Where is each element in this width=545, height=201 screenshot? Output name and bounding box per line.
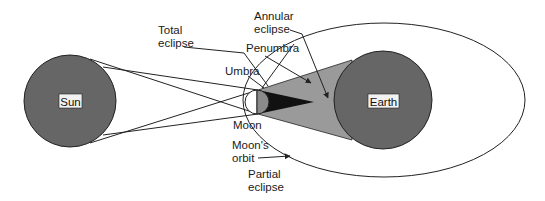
solar-eclipse-diagram: Sun Earth Total eclipse Annular eclipse … (0, 0, 545, 201)
moons-orbit-arrow (258, 156, 290, 158)
earth-label-box: Earth (368, 94, 399, 108)
partial-eclipse-label-line1: Partial (248, 168, 281, 180)
moons-orbit-label-line1: Moon's (232, 139, 269, 151)
moon (245, 90, 269, 114)
sun-label: Sun (60, 96, 80, 108)
moon-label: Moon (233, 119, 262, 131)
annular-eclipse-label-line1: Annular (254, 10, 294, 22)
total-eclipse-label-line1: Total (158, 24, 182, 36)
partial-eclipse-label-line2: eclipse (248, 181, 284, 193)
earth-label: Earth (370, 96, 398, 108)
penumbra-arrow (265, 56, 311, 83)
annular-eclipse-label-line2: eclipse (254, 23, 290, 35)
moons-orbit-label-line2: orbit (232, 152, 255, 164)
sun-label-box: Sun (59, 94, 82, 108)
umbra-label: Umbra (225, 65, 260, 77)
